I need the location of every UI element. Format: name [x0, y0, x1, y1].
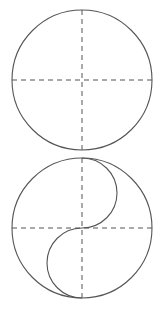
diagram-canvas	[0, 0, 166, 311]
figure-circle-with-s-curve	[12, 158, 152, 298]
figure-circle-quartered	[12, 10, 152, 150]
